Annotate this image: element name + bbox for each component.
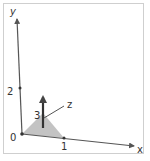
origin-label: 0 bbox=[10, 132, 16, 143]
x-tick-point bbox=[63, 137, 66, 140]
x-tick-label: 1 bbox=[61, 141, 67, 152]
y-tick-label: 2 bbox=[7, 86, 13, 97]
x-axis-label: x bbox=[137, 144, 143, 155]
z-axis-label: z bbox=[67, 99, 72, 110]
y-axis-label: y bbox=[9, 6, 17, 17]
z-tick-label: 3 bbox=[34, 110, 40, 121]
y-axis bbox=[17, 19, 22, 134]
origin-point bbox=[20, 132, 24, 136]
z-axis bbox=[44, 106, 64, 118]
y-tick-point bbox=[19, 87, 22, 90]
axes-diagram: y x z 2 1 3 0 bbox=[0, 0, 150, 161]
x-axis bbox=[22, 134, 134, 146]
